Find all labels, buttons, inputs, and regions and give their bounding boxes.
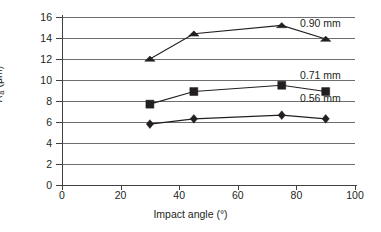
x-axis-line [60,185,357,186]
series-label-0-71-mm: 0.71 mm [300,70,341,81]
gridline-y [62,59,355,60]
gridline-y [62,122,355,123]
y-axis-tick [56,143,62,144]
x-axis-tick-label: 80 [276,190,316,201]
y-axis-symbol: R [0,95,4,103]
y-axis-tick-label: 8 [0,96,52,107]
y-axis-title: Ra (μm) [0,66,4,102]
y-axis-tick [56,122,62,123]
y-axis-tick-label: 2 [0,159,52,170]
y-axis-tick-label: 6 [0,117,52,128]
gridline-y [62,143,355,144]
y-axis-units: (μm) [0,66,4,88]
x-axis-title: Impact angle (°) [0,208,381,220]
x-axis-tick-label: 0 [42,190,82,201]
y-axis-line [62,15,63,187]
y-axis-tick-label: 12 [0,54,52,65]
y-axis-tick-label: 4 [0,138,52,149]
y-axis-tick-label: 0 [0,180,52,191]
x-axis-tick-label: 20 [101,190,141,201]
x-axis-tick-label: 60 [218,190,258,201]
chart-figure: 0246810121416020406080100 Ra (μm) Impact… [0,0,381,232]
y-axis-tick-label: 14 [0,33,52,44]
y-axis-tick-label: 16 [0,12,52,23]
gridline-y [62,164,355,165]
y-axis-tick-label: 10 [0,75,52,86]
gridline-y [62,38,355,39]
y-axis-tick [56,38,62,39]
series-label-0-90-mm: 0.90 mm [300,18,341,29]
y-axis-subscript: a [0,90,6,94]
y-axis-tick [56,101,62,102]
y-axis-tick [56,164,62,165]
series-label-0-56-mm: 0.56 mm [300,93,341,104]
y-axis-tick [56,59,62,60]
y-axis-tick [56,80,62,81]
y-axis-tick [56,17,62,18]
x-axis-tick-label: 40 [159,190,199,201]
x-axis-tick-label: 100 [335,190,375,201]
